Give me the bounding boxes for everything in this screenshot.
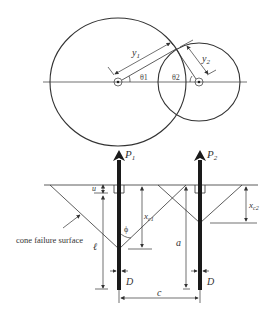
cone-2-left [158,185,200,223]
anchor-cone-failure-diagram: y1 y2 θ1 θ2 [0,0,273,316]
pile-2 [198,160,202,290]
xc1-label: xc1 [143,211,154,222]
load-arrow-2-icon [194,150,206,161]
u-label: u [92,184,96,193]
pile-1 [117,160,121,290]
theta1-label: θ1 [140,73,148,82]
cone-2-right [200,185,242,223]
radius-line-1 [122,49,176,80]
y1-dimension [115,43,170,74]
y2-label: y2 [201,53,210,66]
p2-label: P2 [206,148,218,162]
theta2-label: θ2 [172,73,180,82]
p1-label: P1 [124,148,135,162]
xc2-label: xc2 [248,200,259,211]
phi-label: ϕ [124,225,128,234]
load-arrow-1-icon [113,150,125,161]
a-label: a [176,237,181,248]
cone-failure-surface-label: cone failure surface [16,235,83,245]
theta2-arc [190,76,192,82]
theta1-arc [129,76,130,82]
d1-label: D [125,276,134,287]
c-label: c [157,287,162,298]
y1-label: y1 [131,47,140,60]
d2-label: D [206,276,215,287]
plan-view [43,18,247,146]
cone-leader-line [63,215,80,228]
ell-label: ℓ [93,241,97,252]
